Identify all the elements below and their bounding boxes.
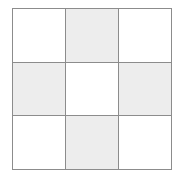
grid-body: [13, 9, 172, 170]
grid-cell[interactable]: [119, 9, 172, 63]
grid-cell[interactable]: [119, 62, 172, 116]
grid-cell[interactable]: [13, 62, 66, 116]
grid-row: [13, 62, 172, 116]
grid-row: [13, 116, 172, 170]
grid-cell[interactable]: [66, 116, 119, 170]
grid-figure: [12, 8, 172, 170]
grid-cell[interactable]: [119, 116, 172, 170]
grid-cell[interactable]: [66, 9, 119, 63]
grid-cell[interactable]: [66, 62, 119, 116]
grid-row: [13, 9, 172, 63]
grid-cell[interactable]: [13, 116, 66, 170]
grid-cell[interactable]: [13, 9, 66, 63]
checkerboard-grid: [12, 8, 172, 170]
